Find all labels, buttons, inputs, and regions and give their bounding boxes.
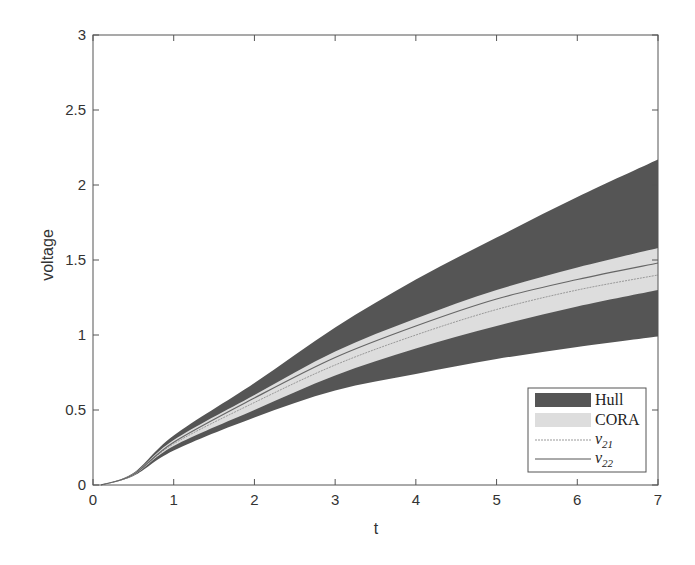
legend-label-v22-sub: 22 [602,457,614,469]
x-tick-label: 3 [331,491,339,508]
y-tick-label: 2.5 [65,101,86,118]
legend-label-v21-sub: 21 [602,438,613,450]
y-tick-label: 0 [78,476,86,493]
x-tick-label: 1 [170,491,178,508]
legend-label-cora: CORA [595,411,640,428]
x-tick-label: 7 [654,491,662,508]
legend-swatch-cora [535,413,591,427]
y-tick-label: 1 [78,326,86,343]
y-tick-label: 0.5 [65,401,86,418]
y-axis-label: voltage [39,229,56,281]
y-tick-label: 1.5 [65,251,86,268]
chart: 01234567 00.511.522.53 t voltage Hull CO… [0,0,695,565]
x-tick-label: 4 [412,491,420,508]
legend: Hull CORA v21 v22 [528,388,646,472]
x-tick-label: 5 [492,491,500,508]
x-axis-label: t [374,520,379,537]
x-tick-label: 2 [250,491,258,508]
x-tick-label: 6 [573,491,581,508]
legend-swatch-hull [535,393,591,407]
x-tick-label: 0 [89,491,97,508]
legend-label-hull: Hull [595,391,624,408]
y-tick-label: 2 [78,176,86,193]
y-tick-label: 3 [78,26,86,43]
